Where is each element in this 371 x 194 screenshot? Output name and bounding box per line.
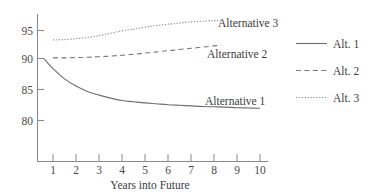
legend-item-alt-1[interactable]: Alt. 1 — [296, 38, 359, 50]
y-tick-label-80: 80 — [22, 115, 34, 127]
legend-label-alt-1: Alt. 1 — [333, 38, 359, 50]
x-tick-label-7: 7 — [188, 164, 194, 176]
x-tick-label-1: 1 — [50, 164, 56, 176]
x-tick-label-5: 5 — [142, 164, 148, 176]
y-tick-labels: 95 90 85 80 — [22, 25, 34, 127]
x-tick-label-6: 6 — [165, 164, 171, 176]
y-tick-label-85: 85 — [22, 84, 34, 96]
y-tick-label-95: 95 — [22, 25, 34, 37]
x-tick-label-4: 4 — [119, 164, 125, 176]
legend: Alt. 1 Alt. 2 Alt. 3 — [296, 38, 359, 104]
inline-label-alt-2: Alternative 2 — [207, 48, 268, 60]
legend-label-alt-3: Alt. 3 — [333, 92, 359, 104]
x-tick-label-10: 10 — [254, 164, 266, 176]
x-tick-group — [53, 154, 260, 162]
y-tick-group — [38, 31, 45, 121]
x-tick-label-8: 8 — [211, 164, 217, 176]
series-line-alt-3 — [53, 20, 221, 40]
line-chart: 95 90 85 80 1 2 3 4 5 6 7 8 9 — [0, 0, 371, 194]
legend-label-alt-2: Alt. 2 — [333, 65, 359, 77]
inline-label-alt-1: Alternative 1 — [205, 95, 266, 107]
x-tick-label-2: 2 — [73, 164, 79, 176]
x-tick-labels: 1 2 3 4 5 6 7 8 9 10 — [50, 164, 266, 176]
legend-item-alt-3[interactable]: Alt. 3 — [296, 92, 359, 104]
chart-figure: 95 90 85 80 1 2 3 4 5 6 7 8 9 — [0, 0, 371, 194]
legend-item-alt-2[interactable]: Alt. 2 — [296, 65, 359, 77]
x-tick-label-3: 3 — [96, 164, 102, 176]
inline-label-alt-3: Alternative 3 — [218, 17, 279, 29]
y-tick-label-90: 90 — [22, 53, 34, 65]
x-tick-label-9: 9 — [234, 164, 240, 176]
x-axis-title: Years into Future — [110, 179, 189, 191]
series-line-alt-2 — [53, 45, 221, 58]
